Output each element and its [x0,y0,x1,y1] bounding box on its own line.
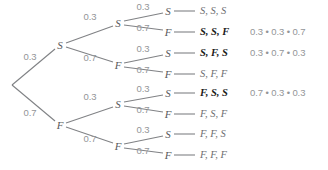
outcome-sss: S, S, S [200,6,226,17]
probability-leaf-node-5: 0.3 [137,84,150,94]
leaf-node-3: S [165,48,171,59]
leaf-node-5: S [165,88,171,99]
node-fs: S [115,99,121,110]
probability-node-fs: 0.3 [84,92,97,102]
node-sf: F [115,60,122,71]
probability-leaf-node-2: 0.7 [137,23,150,33]
leaf-node-7: S [165,129,171,140]
node-f: F [57,120,64,131]
edge-node-ff-s [124,136,163,144]
product-outcome-ssf: 0.3 • 0.3 • 0.7 [250,27,305,37]
edge-node-s-s [66,26,113,43]
probability-tree-diagram: 0.3S0.7F0.3S0.7F0.3S0.7F0.3S0.7F0.3S0.7F… [0,0,328,170]
node-s: S [57,40,63,51]
outcome-sfs: S, F, S [200,48,228,59]
probability-leaf-node-7: 0.3 [137,125,150,135]
probability-leaf-node-4: 0.7 [137,65,150,75]
outcome-fff: F, F, F [200,150,227,161]
outcome-sff: S, F, F [200,69,227,80]
leaf-node-6: F [165,109,172,120]
node-ss: S [115,18,121,29]
outcome-ssf: S, S, F [200,27,229,38]
leaf-node-4: F [165,69,172,80]
outcome-fsf: F, S, F [200,109,227,120]
probability-leaf-node-6: 0.7 [137,105,150,115]
edge-node-ss-s [124,13,163,21]
leaf-node-2: F [165,27,172,38]
outcome-ffs: F, F, S [200,129,226,140]
product-outcome-sfs: 0.3 • 0.7 • 0.3 [250,48,305,58]
leaf-node-1: S [165,6,171,17]
edge-node-sf-s [124,55,163,63]
edge-node-f-s [66,107,113,123]
probability-node-f: 0.7 [24,108,37,118]
leaf-node-8: F [165,150,172,161]
outcome-fss: F, S, S [200,88,228,99]
edge-node-fs-s [124,95,163,102]
node-ff: F [115,141,122,152]
probability-node-sf: 0.7 [84,53,97,63]
probability-node-s: 0.3 [24,52,37,62]
probability-node-ss: 0.3 [84,12,97,22]
probability-leaf-node-1: 0.3 [137,2,150,12]
probability-leaf-node-3: 0.3 [137,44,150,54]
product-outcome-fss: 0.7 • 0.3 • 0.3 [250,88,305,98]
probability-node-ff: 0.7 [84,134,97,144]
probability-leaf-node-8: 0.7 [137,146,150,156]
